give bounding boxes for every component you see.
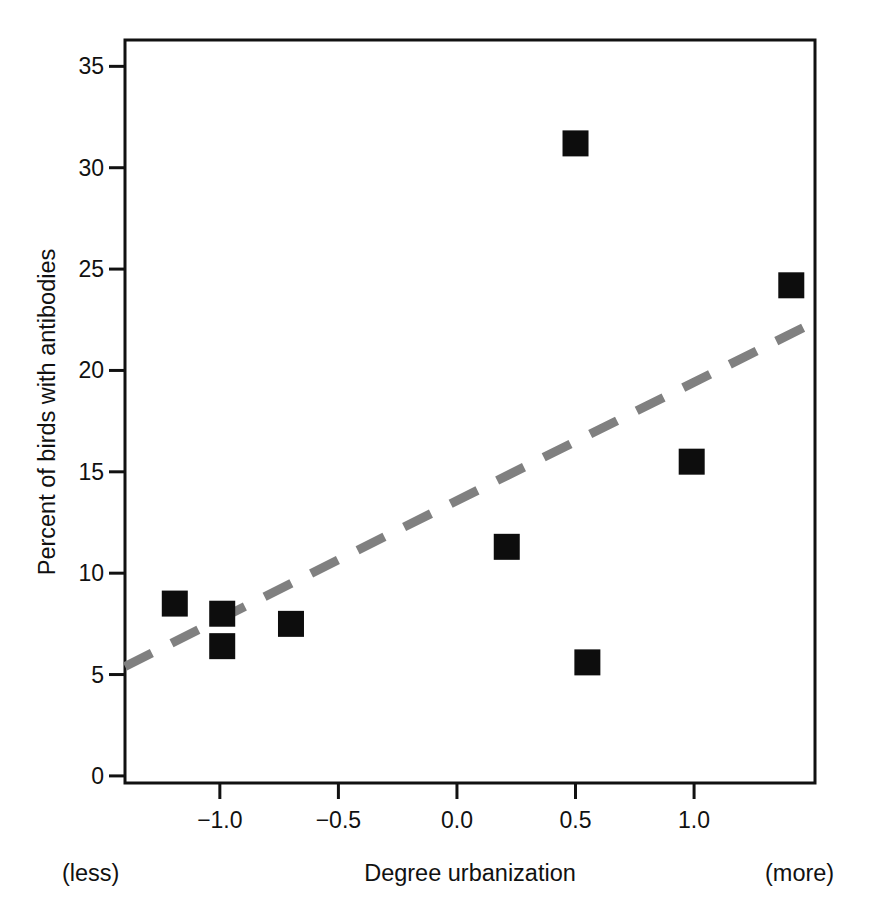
data-points	[162, 130, 804, 675]
data-point-marker	[679, 449, 705, 475]
y-tick-label: 0	[58, 762, 104, 789]
data-point-marker	[563, 130, 589, 156]
axis-frame	[125, 40, 815, 783]
data-point-marker	[574, 649, 600, 675]
y-tick-label: 20	[58, 357, 104, 384]
x-axis-ticks	[220, 783, 694, 799]
data-point-marker	[162, 591, 188, 617]
data-point-marker	[209, 601, 235, 627]
x-tick-label: 0.5	[560, 807, 592, 834]
data-point-marker	[494, 534, 520, 560]
x-tick-label: 0.0	[441, 807, 473, 834]
axis-note-less: (less)	[62, 860, 119, 887]
data-point-marker	[209, 633, 235, 659]
y-tick-label: 25	[58, 256, 104, 283]
y-tick-label: 15	[58, 458, 104, 485]
x-tick-label: −0.5	[316, 807, 361, 834]
data-point-marker	[278, 611, 304, 637]
plot-canvas	[0, 0, 870, 903]
data-point-marker	[778, 272, 804, 298]
scatter-plot-figure: 05101520253035−1.0−0.50.00.51.0 Percent …	[0, 0, 870, 903]
x-tick-label: 1.0	[678, 807, 710, 834]
y-tick-label: 5	[58, 661, 104, 688]
y-tick-label: 10	[58, 560, 104, 587]
y-axis-title: Percent of birds with antibodies	[34, 248, 61, 575]
y-tick-label: 35	[58, 53, 104, 80]
y-axis-ticks	[109, 66, 125, 776]
x-tick-label: −1.0	[197, 807, 242, 834]
axis-note-more: (more)	[765, 860, 834, 887]
y-tick-label: 30	[58, 154, 104, 181]
x-axis-title: Degree urbanization	[364, 860, 576, 887]
